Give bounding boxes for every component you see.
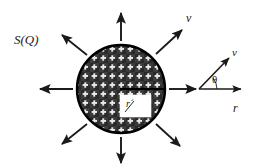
velocity-vector-label: v — [232, 47, 237, 58]
arrow-southwest — [62, 124, 87, 144]
arrow-northeast — [156, 30, 182, 54]
velocity-outer-label: v — [186, 12, 191, 24]
radial-axis-label: r — [233, 102, 238, 114]
theta-angle-label: θ — [212, 74, 217, 85]
inner-radius-box — [120, 95, 151, 117]
angle-diagram — [199, 58, 241, 89]
inner-radius-label: r´ — [126, 99, 133, 109]
scattering-sphere-figure: S(Q) v v θ r r´ — [0, 0, 253, 168]
arrow-southeast — [156, 124, 180, 146]
arrow-northwest — [62, 35, 87, 55]
structure-factor-label: S(Q) — [14, 33, 39, 46]
